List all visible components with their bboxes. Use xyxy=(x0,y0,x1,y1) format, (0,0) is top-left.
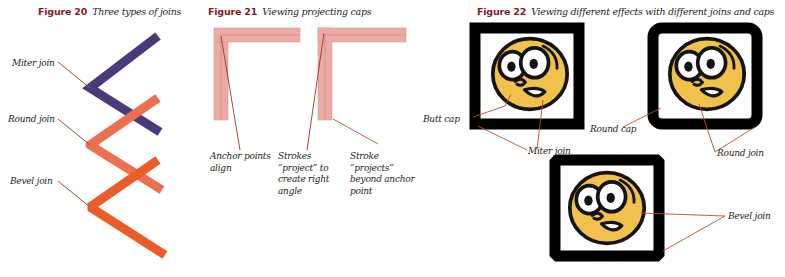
annotation-strokes-project: Strokes “project” to create right angle xyxy=(278,151,344,197)
figure-20-panel: Figure 20Three types of joins Miter join… xyxy=(0,0,200,277)
leader-line-bevel xyxy=(58,181,90,207)
annotation-miter-join: Miter join xyxy=(12,58,55,70)
annotation-miter-join: Miter join xyxy=(528,146,571,158)
figure-20-graphic xyxy=(0,0,200,277)
annotation-round-join: Round join xyxy=(717,148,764,160)
annotation-anchor-points-align: Anchor points align xyxy=(210,151,274,174)
frame-round-round xyxy=(653,28,757,124)
annotation-round-cap: Round cap xyxy=(590,124,636,136)
figure-22-graphic xyxy=(415,0,785,277)
frame-bevel xyxy=(555,160,659,256)
leader-line-bevel-join-b xyxy=(663,216,725,251)
leader-line-round xyxy=(58,119,90,145)
figure-21-graphic xyxy=(200,0,415,277)
projecting-cap-corner-shape xyxy=(318,28,406,120)
leader-line-miter-join xyxy=(478,126,527,150)
figure-21-panel: Figure 21Viewing projecting caps Anchor … xyxy=(200,0,415,277)
annotation-butt-cap: Butt cap xyxy=(423,114,460,126)
leader-line-stroke-projects-beyond xyxy=(333,119,378,144)
figure-22-panel: Figure 22Viewing different effects with … xyxy=(415,0,785,277)
annotation-stroke-projects-beyond: Stroke “projects” beyond anchor point xyxy=(350,151,416,197)
annotation-bevel-join: Bevel join xyxy=(10,176,52,188)
bevel-join-stroke xyxy=(90,160,165,255)
leader-line-miter xyxy=(58,62,90,88)
annotation-bevel-join: Bevel join xyxy=(728,211,770,223)
frame-miter-butt xyxy=(475,28,579,124)
annotation-round-join: Round join xyxy=(8,114,55,126)
